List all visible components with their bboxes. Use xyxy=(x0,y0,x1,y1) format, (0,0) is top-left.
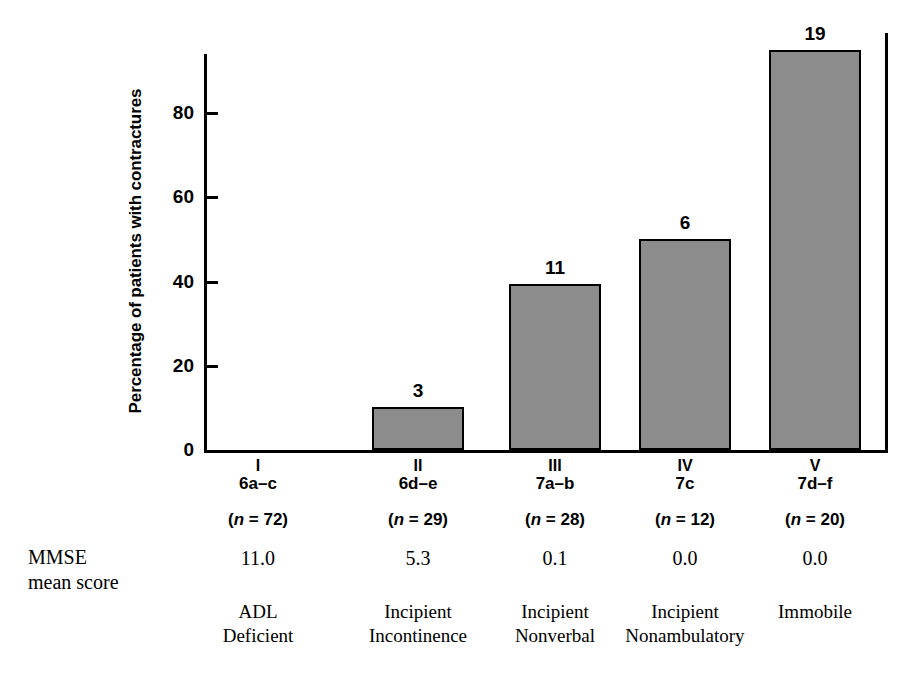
y-axis-tick-label-text: 80 xyxy=(150,103,194,122)
category-sample-size: (n = 72) xyxy=(178,510,338,529)
y-axis-tick-mark xyxy=(207,281,218,284)
y-axis-tick-label: 20 xyxy=(150,356,194,375)
bar-value-label: 6 xyxy=(635,213,735,233)
category-description: IncipientIncontinence xyxy=(338,600,498,648)
category-description: Immobile xyxy=(735,600,895,624)
y-axis-tick-label-text: 20 xyxy=(150,356,194,375)
y-axis-title: Percentage of patients with contractures xyxy=(126,51,152,451)
mmse-row-label: MMSE mean score xyxy=(28,545,178,595)
bar xyxy=(769,50,861,450)
category-stage-label: 6a–c xyxy=(178,474,338,493)
category-mmse-value: 0.0 xyxy=(735,547,895,569)
bar-value-label: 3 xyxy=(368,381,468,401)
bar xyxy=(372,407,464,450)
x-axis-line xyxy=(204,450,888,453)
y-axis-tick-mark xyxy=(207,196,218,199)
y-axis-tick-mark xyxy=(207,112,218,115)
bar-chart-figure: Percentage of patients with contractures… xyxy=(0,0,916,684)
y-axis-tick-mark xyxy=(207,365,218,368)
y-axis-tick-label: 80 xyxy=(150,103,194,122)
y-axis-tick-label: 60 xyxy=(150,187,194,206)
category-roman-numeral: V xyxy=(735,457,895,474)
category-roman-numeral: II xyxy=(338,457,498,474)
y-axis-tick-label-text: 40 xyxy=(150,272,194,291)
category-roman-numeral: I xyxy=(178,457,338,474)
y-axis-tick-label-text: 60 xyxy=(150,187,194,206)
y-axis-tick-label: 40 xyxy=(150,272,194,291)
bar-value-label: 19 xyxy=(765,24,865,44)
category-sample-size: (n = 29) xyxy=(338,510,498,529)
mmse-row-label-line1: MMSE xyxy=(28,545,178,570)
category-stage-label: 7d–f xyxy=(735,474,895,493)
category-sample-size: (n = 20) xyxy=(735,510,895,529)
category-mmse-value: 5.3 xyxy=(338,547,498,569)
category-mmse-value: 11.0 xyxy=(178,547,338,569)
category-description: ADLDeficient xyxy=(178,600,338,648)
bar xyxy=(639,239,731,450)
bar xyxy=(509,284,601,450)
mmse-row-label-line2: mean score xyxy=(28,570,178,595)
plot-right-border-line xyxy=(885,33,888,453)
category-stage-label: 6d–e xyxy=(338,474,498,493)
bar-value-label: 11 xyxy=(505,258,605,278)
